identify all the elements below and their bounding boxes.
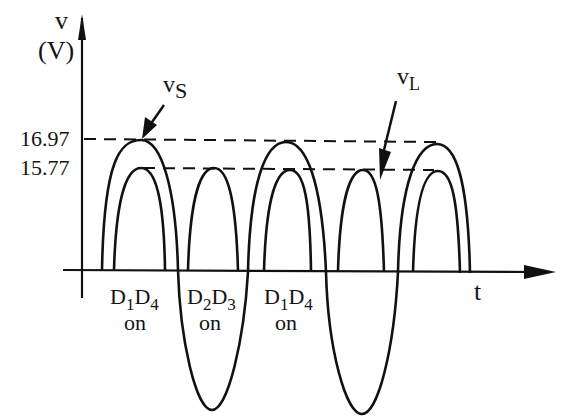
waveform-diagram (0, 0, 566, 418)
vs-label: vS (163, 72, 187, 96)
tick-label-16-97: 16.97 (20, 128, 70, 150)
vs-label-main: v (163, 71, 175, 97)
t-axis-label: t (474, 279, 481, 305)
y-axis-label: v (55, 8, 68, 34)
interval-state-3: on (275, 312, 297, 334)
interval-state-2: on (199, 312, 221, 334)
y-axis-arrow (78, 14, 86, 40)
interval-label-3: D1D4 (264, 286, 313, 308)
vs-waveform (102, 140, 470, 414)
interval-label-2: D2D3 (187, 286, 236, 308)
interval-state-1: on (124, 312, 146, 334)
t-axis-arrow (524, 265, 556, 279)
vl-label-main: v (397, 63, 409, 89)
t-axis (63, 270, 540, 272)
vl-pointer-line (384, 101, 396, 150)
y-axis-unit: (V) (38, 38, 74, 64)
vs-label-subscript: S (175, 78, 187, 103)
vl-pointer-arrowhead (379, 148, 391, 180)
vl-label-subscript: L (409, 74, 420, 94)
tick-label-15-77: 15.77 (20, 157, 70, 179)
interval-label-1: D1D4 (110, 286, 159, 308)
vl-label: vL (397, 64, 420, 88)
